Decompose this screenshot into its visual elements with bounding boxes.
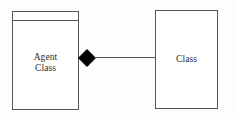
uml-diagram-canvas: Agent Class Class	[0, 0, 236, 116]
agent-class-node[interactable]: Agent Class	[12, 11, 79, 110]
composition-diamond-svg	[78, 49, 96, 67]
agent-class-body: Agent Class	[13, 21, 78, 109]
agent-class-label: Agent Class	[34, 52, 58, 75]
composition-association-line	[94, 57, 156, 58]
composition-diamond-icon	[78, 49, 96, 67]
diamond-shape	[79, 50, 96, 67]
class-node[interactable]: Class	[155, 10, 218, 109]
class-label: Class	[176, 54, 197, 66]
agent-class-stereotype-compartment	[13, 12, 78, 21]
